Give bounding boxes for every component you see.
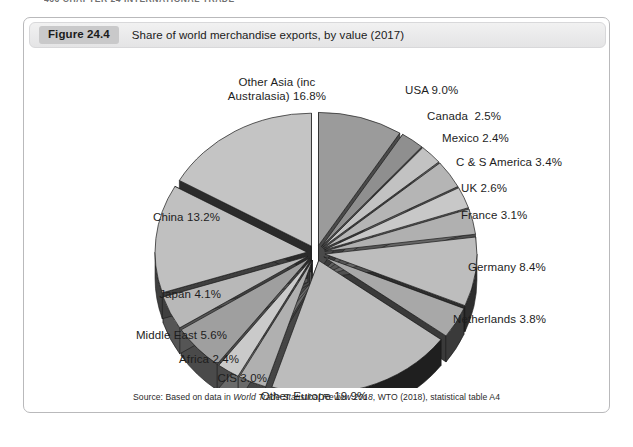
- pie-slice-label-africa: Africa 2.4%: [24, 353, 239, 367]
- source-prefix: Source: Based on data in: [133, 392, 233, 402]
- running-head: 466 CHAPTER 24 INTERNATIONAL TRADE: [44, 0, 235, 8]
- figure-source-note: Source: Based on data in World Trade Sta…: [24, 392, 609, 402]
- pie-slice-label-uk: UK 2.6%: [461, 182, 507, 196]
- pie-slice-label-germany: Germany 8.4%: [468, 261, 546, 275]
- pie-slice-label-c-s-america: C & S America 3.4%: [456, 156, 562, 170]
- pie-slice-label-cis: CIS 3.0%: [24, 372, 267, 386]
- pie-slice-label-mexico: Mexico 2.4%: [442, 132, 509, 146]
- figure-caption: Share of world merchandise exports, by v…: [132, 29, 404, 41]
- figure-header: Figure 24.4 Share of world merchandise e…: [29, 22, 606, 48]
- pie-slice-label-middle-east: Middle East 5.6%: [24, 329, 227, 343]
- figure-box: Figure 24.4 Share of world merchandise e…: [23, 17, 610, 413]
- pie-slice-label-canada: Canada 2.5%: [427, 110, 501, 124]
- pie-slice-label-china: China 13.2%: [24, 211, 220, 225]
- pie-slice-label-usa: USA 9.0%: [405, 84, 458, 98]
- pie-slice-label-france: France 3.1%: [461, 209, 527, 223]
- pie-chart: USA 9.0%Canada 2.5%Mexico 2.4%C & S Amer…: [24, 48, 609, 388]
- pie-slice-label-netherlands: Netherlands 3.8%: [453, 313, 546, 327]
- pie-slice-label-other-asia-inc-australasia: Other Asia (inc Australasia) 16.8%: [187, 76, 367, 103]
- figure-number-badge: Figure 24.4: [39, 26, 119, 45]
- source-title: World Trade Statistical Review 2018: [233, 392, 373, 402]
- source-suffix: , WTO (2018), statistical table A4: [373, 392, 500, 402]
- pie-slice-label-japan: Japan 4.1%: [24, 288, 221, 302]
